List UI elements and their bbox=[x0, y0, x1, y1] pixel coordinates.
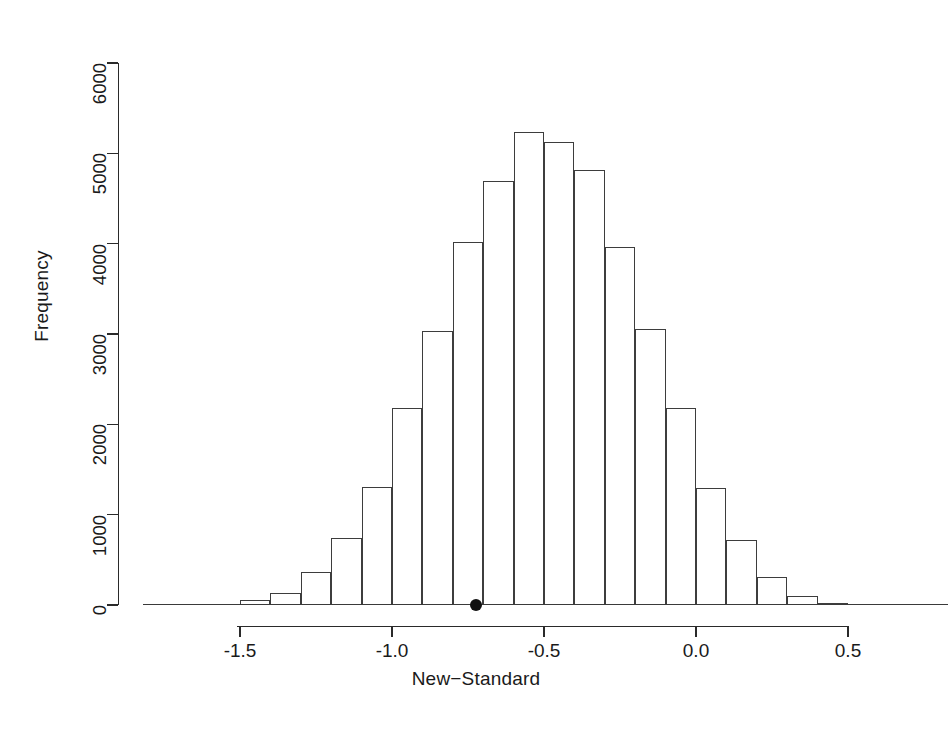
observed-statistic-point bbox=[470, 599, 482, 611]
y-axis-tick-label: 2000 bbox=[89, 424, 111, 465]
x-axis-label: New−Standard bbox=[0, 668, 952, 690]
histogram-bar bbox=[301, 572, 331, 605]
x-axis-tick-label: -1.0 bbox=[357, 640, 427, 662]
histogram-bar bbox=[666, 408, 696, 605]
x-axis-tick bbox=[695, 626, 696, 637]
x-axis-tick-label: -1.5 bbox=[205, 640, 275, 662]
histogram-bar bbox=[544, 142, 574, 605]
histogram-bar bbox=[422, 331, 452, 605]
histogram-bar bbox=[453, 242, 483, 605]
histogram-bar bbox=[514, 132, 544, 605]
histogram-bar bbox=[483, 181, 513, 605]
histogram-bar bbox=[757, 577, 787, 605]
y-axis-tick-label: 1000 bbox=[89, 515, 111, 556]
plot-baseline bbox=[143, 604, 948, 605]
histogram-figure: Frequency 0100020003000400050006000 -1.5… bbox=[0, 0, 952, 731]
histogram-bar bbox=[605, 247, 635, 605]
x-axis-tick-label: -0.5 bbox=[509, 640, 579, 662]
x-axis-tick bbox=[543, 626, 544, 637]
y-axis-line bbox=[118, 63, 119, 605]
y-axis-tick-label: 6000 bbox=[89, 63, 111, 104]
x-axis-tick bbox=[391, 626, 392, 637]
x-axis-tick-label: 0.0 bbox=[661, 640, 731, 662]
x-axis-tick-label: 0.5 bbox=[813, 640, 883, 662]
y-axis-tick-label: 3000 bbox=[89, 334, 111, 375]
histogram-bar bbox=[726, 540, 756, 605]
x-axis-tick bbox=[847, 626, 848, 637]
y-axis-tick-label: 0 bbox=[89, 605, 111, 615]
x-axis-tick bbox=[239, 626, 240, 637]
y-axis-tick-label: 4000 bbox=[89, 244, 111, 285]
histogram-bar bbox=[574, 170, 604, 605]
y-axis-tick-label: 5000 bbox=[89, 153, 111, 194]
histogram-bar bbox=[696, 488, 726, 605]
histogram-bar bbox=[392, 408, 422, 605]
histogram-bar bbox=[635, 329, 665, 605]
histogram-bar bbox=[362, 487, 392, 605]
histogram-bar bbox=[331, 538, 361, 605]
y-axis-label: Frequency bbox=[31, 216, 53, 376]
